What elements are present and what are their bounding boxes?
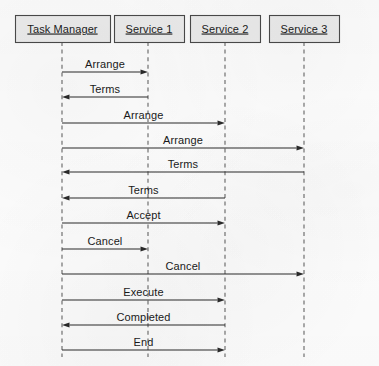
message-11-completed[interactable]: Completed [62, 311, 225, 328]
sequence-diagram-canvas: Task ManagerService 1Service 2Service 3 … [0, 0, 379, 366]
messages-layer: ArrangeTermsArrangeArrangeTermsTermsAcce… [62, 58, 304, 353]
message-arrow-head [141, 247, 149, 252]
message-4-arrange[interactable]: Arrange [62, 134, 304, 151]
message-label: Execute [123, 286, 163, 298]
participant-label-s3: Service 3 [281, 23, 328, 35]
participants-layer: Task ManagerService 1Service 2Service 3 [16, 16, 340, 43]
participant-label-tm: Task Manager [27, 23, 98, 35]
message-label: Accept [126, 209, 160, 221]
message-arrow-head [218, 348, 226, 353]
message-9-cancel[interactable]: Cancel [62, 260, 304, 277]
participant-label-s1: Service 1 [126, 23, 173, 35]
message-5-terms[interactable]: Terms [62, 158, 304, 175]
message-label: Arrange [124, 109, 164, 121]
participant-s1[interactable]: Service 1 [115, 16, 185, 43]
message-1-arrange[interactable]: Arrange [62, 58, 148, 75]
message-10-execute[interactable]: Execute [62, 286, 225, 303]
participant-tm[interactable]: Task Manager [16, 16, 111, 43]
sequence-diagram: Task ManagerService 1Service 2Service 3 … [0, 0, 379, 366]
message-label: Terms [128, 184, 159, 196]
message-2-terms[interactable]: Terms [62, 83, 148, 100]
message-7-accept[interactable]: Accept [62, 209, 225, 226]
participant-s3[interactable]: Service 3 [270, 16, 340, 43]
message-8-cancel[interactable]: Cancel [62, 235, 148, 252]
message-arrow-head [141, 70, 149, 75]
message-label: End [134, 336, 154, 348]
message-arrow-head [62, 95, 70, 100]
message-arrow-head [218, 121, 226, 126]
message-12-end[interactable]: End [62, 336, 225, 353]
message-label: Terms [90, 83, 121, 95]
participant-s2[interactable]: Service 2 [191, 16, 261, 43]
message-arrow-head [218, 298, 226, 303]
message-arrow-head [62, 196, 70, 201]
participant-label-s2: Service 2 [202, 23, 249, 35]
message-label: Cancel [88, 235, 123, 247]
message-label: Completed [116, 311, 170, 323]
message-arrow-head [62, 170, 70, 175]
message-arrow-head [297, 272, 305, 277]
message-label: Arrange [163, 134, 203, 146]
message-arrow-head [218, 221, 226, 226]
message-6-terms[interactable]: Terms [62, 184, 225, 201]
message-arrow-head [62, 323, 70, 328]
message-arrow-head [297, 146, 305, 151]
message-3-arrange[interactable]: Arrange [62, 109, 225, 126]
message-label: Cancel [166, 260, 201, 272]
message-label: Terms [168, 158, 199, 170]
message-label: Arrange [85, 58, 125, 70]
